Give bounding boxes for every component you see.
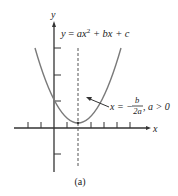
parabola-figure: x y y = ax2 + bx + c x	[0, 0, 178, 196]
svg-text:, a > 0: , a > 0	[143, 101, 170, 112]
annotation-pointer	[86, 97, 109, 107]
x-axis-arrow-icon	[146, 126, 151, 130]
svg-text:x = −: x = −	[109, 101, 133, 112]
x-axis: x	[14, 122, 158, 134]
equation-label: y = ax2 + bx + c	[60, 27, 130, 39]
figure-caption: (a)	[74, 176, 85, 188]
svg-text:2a: 2a	[133, 106, 142, 116]
vertex-point	[77, 122, 79, 124]
y-axis: y	[50, 9, 61, 172]
y-axis-arrow-icon	[52, 21, 56, 27]
x-axis-label: x	[152, 123, 158, 134]
y-axis-label: y	[50, 9, 56, 20]
symmetry-annotation: x = − b 2a , a > 0	[109, 95, 170, 116]
svg-text:b: b	[135, 95, 139, 105]
